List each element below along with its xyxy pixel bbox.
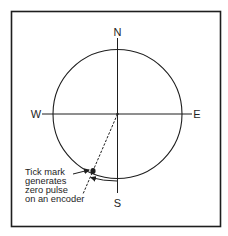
tick-radial-dashed-line xyxy=(83,114,118,194)
north-label: N xyxy=(114,26,122,38)
annotation-line-4: on an encoder xyxy=(25,194,84,204)
south-label: S xyxy=(114,197,121,209)
encoder-compass-diagram: N S W E Tick mark generates zero pulse o… xyxy=(0,0,228,236)
tick-mark-dot xyxy=(90,168,95,174)
west-label: W xyxy=(31,108,42,120)
east-label: E xyxy=(193,108,200,120)
label-pointer-arrow xyxy=(73,170,89,174)
